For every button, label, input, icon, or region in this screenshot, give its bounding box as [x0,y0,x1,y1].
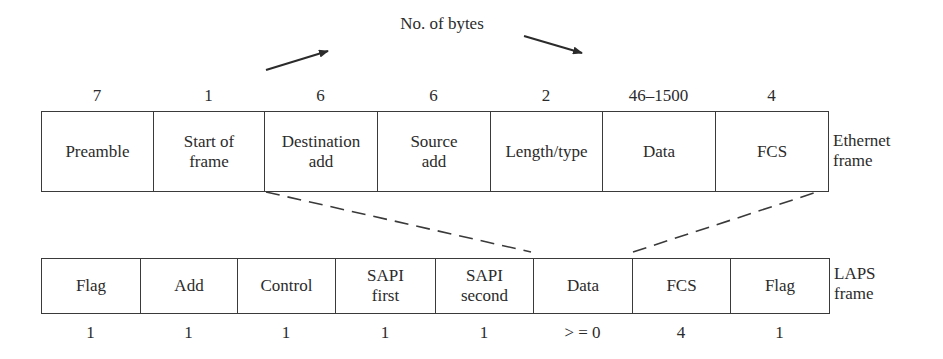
laps-field-sapi-first: SAPI first [336,259,436,313]
laps-field-data: Data [534,259,633,313]
ethernet-frame: Preamble Start of frame Destination add … [41,111,829,192]
laps-bytes-sapi-first: 1 [335,323,435,343]
laps-field-flag-start: Flag [42,259,141,313]
ethernet-bytes-data: 46–1500 [602,86,715,106]
laps-field-flag-end: Flag [731,259,829,313]
ethernet-bytes-start-of-frame: 1 [153,86,264,106]
ethernet-field-length-type: Length/type [491,112,603,191]
ethernet-bytes-fcs: 4 [715,86,828,106]
arrow-right-down-icon [524,36,582,53]
ethernet-bytes-preamble: 7 [41,86,153,106]
arrow-right-up-icon [266,51,328,70]
laps-bytes-control: 1 [237,323,335,343]
mapping-dashed-line-right [633,191,820,252]
laps-bytes-flag-end: 1 [730,323,829,343]
laps-field-control: Control [238,259,336,313]
laps-bytes-data: > = 0 [533,323,632,343]
ethernet-field-source-add: Source add [378,112,491,191]
laps-bytes-add: 1 [140,323,237,343]
ethernet-frame-label: Ethernet frame [833,131,891,171]
ethernet-field-destination-add: Destination add [265,112,378,191]
ethernet-field-start-of-frame: Start of frame [154,112,265,191]
mapping-dashed-line-left [266,192,531,252]
ethernet-field-preamble: Preamble [42,112,154,191]
laps-bytes-fcs: 4 [632,323,730,343]
ethernet-bytes-destination: 6 [264,86,377,106]
ethernet-field-fcs: FCS [716,112,828,191]
laps-frame: Flag Add Control SAPI first SAPI second … [41,258,830,314]
ethernet-bytes-length-type: 2 [490,86,602,106]
laps-bytes-flag-start: 1 [41,323,140,343]
laps-field-fcs: FCS [633,259,731,313]
laps-field-sapi-second: SAPI second [436,259,534,313]
laps-frame-label: LAPS frame [834,264,876,304]
laps-bytes-sapi-second: 1 [435,323,533,343]
ethernet-field-data: Data [603,112,716,191]
laps-field-add: Add [141,259,238,313]
ethernet-bytes-source: 6 [377,86,490,106]
